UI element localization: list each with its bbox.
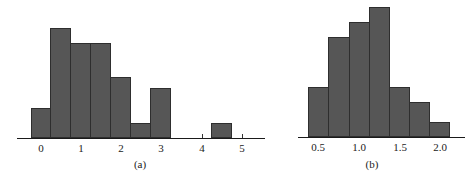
tick-a-5: [242, 134, 243, 138]
tick-label-a-3: 3: [158, 142, 164, 154]
panel-label-a: (a): [134, 158, 146, 170]
bar-b-0: [308, 87, 329, 137]
bar-a-2: [70, 43, 91, 138]
bar-b-6: [429, 122, 450, 137]
bar-a-4: [110, 77, 131, 138]
bar-a-1: [50, 28, 71, 138]
tick-a-4: [202, 134, 203, 138]
bar-a-5: [130, 123, 151, 138]
panel-label-b: (b): [366, 158, 379, 170]
tick-label-a-1: 1: [78, 142, 84, 154]
bar-a-6: [150, 88, 171, 138]
tick-label-b-0: 0.5: [311, 141, 325, 153]
tick-label-a-5: 5: [239, 142, 245, 154]
tick-label-b-1: 1.0: [352, 141, 366, 153]
bar-a-3: [90, 43, 111, 138]
bar-b-5: [409, 102, 430, 137]
tick-label-a-4: 4: [199, 142, 205, 154]
x-axis-a: [17, 138, 265, 139]
bar-a-0: [31, 108, 51, 138]
tick-label-b-2: 1.5: [393, 141, 407, 153]
bar-a-9: [211, 123, 232, 138]
tick-label-b-3: 2.0: [433, 141, 447, 153]
bar-b-1: [328, 37, 350, 137]
figure: 0 1 2 3 4 5 (a) 0.5 1.0 1.5 2.0 (b): [0, 0, 475, 180]
bar-b-3: [369, 7, 390, 137]
tick-label-a-0: 0: [38, 142, 44, 154]
tick-label-a-2: 2: [118, 142, 124, 154]
bar-b-2: [349, 22, 370, 137]
bar-b-4: [389, 87, 410, 137]
x-axis-b: [298, 137, 465, 138]
